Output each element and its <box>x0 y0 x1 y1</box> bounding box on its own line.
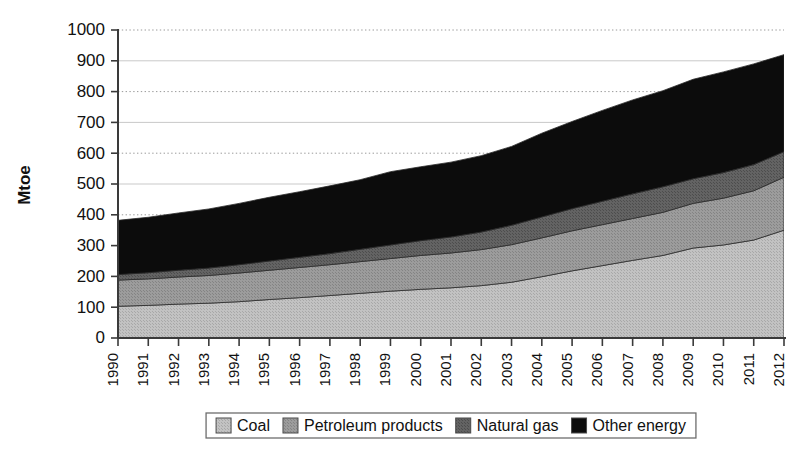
x-tick-label-1994: 1994 <box>225 353 242 386</box>
y-tick-label-400: 400 <box>77 205 105 224</box>
x-tick-label-1997: 1997 <box>316 353 333 386</box>
x-tick-label-2011: 2011 <box>740 353 757 385</box>
y-axis-ticks: 01002003004005006007008009001000 <box>67 20 118 347</box>
x-tick-label-1995: 1995 <box>255 353 272 386</box>
x-axis-ticks: 1990199119921993199419951996199719981999… <box>104 338 787 386</box>
x-tick-label-2012: 2012 <box>770 353 787 386</box>
y-tick-label-500: 500 <box>77 174 105 193</box>
y-tick-label-900: 900 <box>77 51 105 70</box>
y-tick-label-300: 300 <box>77 236 105 255</box>
y-tick-label-700: 700 <box>77 113 105 132</box>
legend-label-petroleum-products: Petroleum products <box>304 417 443 434</box>
x-tick-label-1993: 1993 <box>195 353 212 386</box>
y-tick-label-1000: 1000 <box>67 20 105 39</box>
x-tick-label-2005: 2005 <box>558 353 575 386</box>
legend-swatch-petroleum-products <box>283 418 298 433</box>
x-tick-label-2007: 2007 <box>619 353 636 386</box>
x-tick-label-2010: 2010 <box>709 353 726 386</box>
series-areas <box>118 55 784 338</box>
x-tick-label-2004: 2004 <box>528 353 545 386</box>
legend-label-other-energy: Other energy <box>593 417 686 434</box>
x-tick-label-1996: 1996 <box>286 353 303 386</box>
y-tick-label-100: 100 <box>77 298 105 317</box>
legend-label-natural-gas: Natural gas <box>477 417 559 434</box>
y-tick-label-0: 0 <box>96 328 105 347</box>
chart-legend: CoalPetroleum productsNatural gasOther e… <box>206 413 696 438</box>
x-tick-label-2009: 2009 <box>679 353 696 386</box>
x-tick-label-2000: 2000 <box>407 353 424 386</box>
legend-swatch-coal <box>216 418 231 433</box>
legend-swatch-natural-gas <box>456 418 471 433</box>
y-axis-title: Mtoe <box>15 165 34 205</box>
x-tick-label-2006: 2006 <box>588 353 605 386</box>
x-tick-label-1999: 1999 <box>376 353 393 386</box>
x-tick-label-2003: 2003 <box>498 353 515 386</box>
legend-swatch-other-energy <box>572 418 587 433</box>
legend-label-coal: Coal <box>237 417 270 434</box>
x-tick-label-2002: 2002 <box>467 353 484 386</box>
x-tick-label-2008: 2008 <box>649 353 666 386</box>
x-tick-label-1992: 1992 <box>165 353 182 386</box>
x-tick-label-1990: 1990 <box>104 353 121 386</box>
y-tick-label-800: 800 <box>77 82 105 101</box>
y-tick-label-200: 200 <box>77 267 105 286</box>
stacked-area-chart: 01002003004005006007008009001000 1990199… <box>0 0 809 457</box>
chart-canvas: 01002003004005006007008009001000 1990199… <box>0 0 809 457</box>
y-tick-label-600: 600 <box>77 144 105 163</box>
x-tick-label-2001: 2001 <box>437 353 454 386</box>
x-tick-label-1998: 1998 <box>346 353 363 386</box>
x-tick-label-1991: 1991 <box>134 353 151 386</box>
